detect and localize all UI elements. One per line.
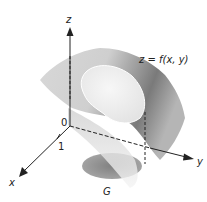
surface-diagram: z y x 0 1 z = f(x, y) G bbox=[0, 0, 207, 202]
origin-label: 0 bbox=[61, 117, 67, 128]
y-axis-arrow-icon bbox=[183, 154, 194, 161]
region-label: G bbox=[103, 186, 111, 197]
y-axis-label: y bbox=[196, 156, 204, 167]
z-axis-label: z bbox=[65, 14, 72, 25]
z-axis-arrow-icon bbox=[67, 27, 74, 36]
tick-label-1: 1 bbox=[58, 141, 64, 152]
surface-label: z = f(x, y) bbox=[138, 54, 189, 65]
x-axis-label: x bbox=[8, 177, 15, 188]
